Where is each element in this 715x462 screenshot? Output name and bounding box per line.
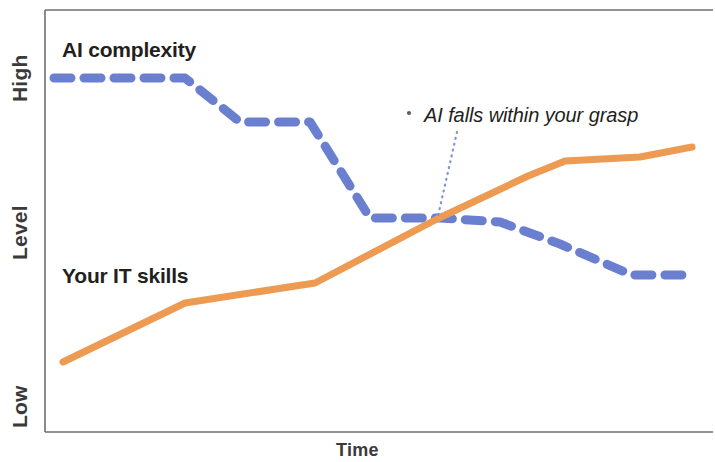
- chart-container: AI complexity Your IT skills AI falls wi…: [0, 0, 715, 462]
- annotation-bullet-dot: [407, 111, 411, 115]
- chart-canvas: [0, 0, 715, 462]
- y-axis-title: Level: [8, 205, 32, 260]
- annotation-label: AI falls within your grasp: [424, 105, 638, 125]
- y-axis-tick-low: Low: [8, 385, 32, 428]
- y-axis-tick-high: High: [8, 55, 32, 102]
- series-line-it-skills: [63, 147, 692, 362]
- series-label-it-skills: Your IT skills: [62, 265, 188, 286]
- x-axis-title: Time: [0, 440, 715, 461]
- annotation-leader-line: [438, 132, 457, 216]
- series-label-ai-complexity: AI complexity: [62, 39, 196, 60]
